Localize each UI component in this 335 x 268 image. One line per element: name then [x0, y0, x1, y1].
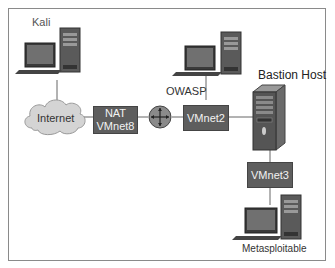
owasp-computer-icon	[172, 32, 241, 76]
vmnet8-label: VMnet8	[97, 120, 135, 133]
nat-vmnet8-box: NAT VMnet8	[93, 106, 138, 134]
kali-computer-icon	[15, 28, 80, 74]
vmnet2-label: VMnet2	[187, 112, 225, 125]
internet-label: Internet	[37, 112, 74, 124]
kali-label: Kali	[32, 16, 50, 28]
vmnet3-box: VMnet3	[247, 162, 293, 188]
nat-label: NAT	[105, 107, 126, 120]
metasploitable-label: Metasploitable	[242, 243, 306, 254]
router-icon	[149, 106, 171, 128]
owasp-label: OWASP	[166, 85, 207, 97]
connections-layer	[0, 0, 335, 268]
bastion-server-icon	[253, 85, 285, 150]
metasploitable-computer-icon	[232, 195, 301, 240]
vmnet2-box: VMnet2	[183, 105, 229, 131]
vmnet3-label: VMnet3	[251, 169, 289, 182]
bastion-host-label: Bastion Host	[258, 68, 326, 82]
